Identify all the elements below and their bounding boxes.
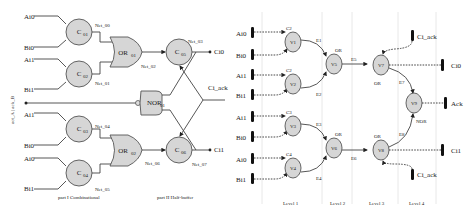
c-gate-04: C 04 xyxy=(66,160,92,186)
c-gate-01: C 01 xyxy=(66,19,92,45)
side-label: act_A | ack_B xyxy=(10,95,15,124)
svg-text:V1: V1 xyxy=(290,40,297,45)
svg-text:C: C xyxy=(175,48,180,56)
node-v5: V5 OR xyxy=(326,48,343,74)
edge-label: E3 xyxy=(316,122,322,127)
edge-label: E4 xyxy=(316,176,322,181)
svg-text:C3: C3 xyxy=(286,110,292,115)
svg-text:C: C xyxy=(175,146,180,154)
input-label: Bi1 xyxy=(236,176,247,184)
input-label: Ai0 xyxy=(24,155,35,163)
svg-text:V4: V4 xyxy=(290,166,297,171)
svg-text:C2: C2 xyxy=(286,26,292,31)
svg-text:C: C xyxy=(77,125,82,133)
input-label: Bi1 xyxy=(24,185,35,193)
level-label-3: Level 3 xyxy=(369,201,385,206)
svg-text:01: 01 xyxy=(131,53,137,58)
c-gate-03: C 03 xyxy=(66,116,92,142)
async-circuit-diagram: act_A | ack_B Ai0 Bi0 Ai1 Bi1 Ai1 Bi0 Ai… xyxy=(0,0,472,219)
level-label-1: Level 1 xyxy=(283,201,299,206)
edge-label: E7 xyxy=(399,80,405,85)
svg-text:V2: V2 xyxy=(290,82,297,87)
net-label: Net_05 xyxy=(95,187,110,192)
svg-text:C4: C4 xyxy=(286,152,292,157)
net-label: Net_00 xyxy=(95,23,110,28)
edge-label: E1 xyxy=(316,38,322,43)
svg-text:OR: OR xyxy=(118,49,128,57)
or-gate-01: OR 01 xyxy=(110,37,142,67)
svg-text:04: 04 xyxy=(83,173,89,178)
input-label: Ai1 xyxy=(24,56,35,64)
svg-text:OR: OR xyxy=(335,48,343,53)
node-v7: V7 OR xyxy=(373,55,389,86)
edge-label: E8 xyxy=(399,132,405,137)
port-ci-ack-bottom: Ci_ack xyxy=(417,171,437,179)
edge-label: E6 xyxy=(351,156,357,161)
port-ack: Ack xyxy=(451,100,463,108)
c-gate-02: C 02 xyxy=(66,61,92,87)
input-label: Ai0 xyxy=(236,156,247,164)
output-ci-ack: Ci_ack xyxy=(208,84,228,92)
svg-text:NOR: NOR xyxy=(416,119,427,124)
svg-text:01: 01 xyxy=(83,32,89,37)
part-label-combinational: part I Combinational xyxy=(58,195,100,200)
svg-text:C: C xyxy=(77,28,82,36)
svg-text:01: 01 xyxy=(160,103,166,108)
svg-text:OR: OR xyxy=(335,132,343,137)
svg-text:V6: V6 xyxy=(331,146,338,151)
node-v6: V6 OR xyxy=(326,132,343,158)
node-v3: V3 C3 xyxy=(285,110,301,136)
input-label: Ai0 xyxy=(236,30,247,38)
net-label: Net_07 xyxy=(192,162,207,167)
net-label: Net_02 xyxy=(141,64,156,69)
svg-text:OR: OR xyxy=(118,147,128,155)
input-label: Ai0 xyxy=(24,13,35,21)
port-ci0: Ci0 xyxy=(451,62,462,70)
input-label: Bi0 xyxy=(24,142,35,150)
svg-text:V7: V7 xyxy=(378,63,385,68)
svg-text:V8: V8 xyxy=(378,148,385,153)
port-ci-ack-top: Ci_ack xyxy=(417,33,437,41)
net-label: Net_03 xyxy=(188,39,203,44)
svg-text:V3: V3 xyxy=(290,124,297,129)
input-label: Bi0 xyxy=(236,134,247,142)
c-gate-05: C 05 xyxy=(166,39,192,65)
right-graph: Ai0 Bi0 Ai1 Bi1 Ai1 Bi0 Ai0 Bi1 V1 C2 xyxy=(236,12,463,206)
svg-text:OR: OR xyxy=(374,134,382,139)
svg-text:V5: V5 xyxy=(331,62,338,67)
svg-text:V9: V9 xyxy=(411,101,418,106)
input-label: Ai1 xyxy=(24,111,35,119)
input-label: Bi0 xyxy=(24,44,35,52)
svg-text:OR: OR xyxy=(374,81,382,86)
svg-text:C: C xyxy=(77,169,82,177)
node-v8: V8 OR xyxy=(373,134,389,160)
node-v9: V9 NOR xyxy=(406,93,427,124)
c-gate-06: C 06 xyxy=(166,137,192,163)
level-label-4: Level 4 xyxy=(409,201,425,206)
input-label: Bi1 xyxy=(24,86,35,94)
input-label: Ai1 xyxy=(236,114,247,122)
output-ci1: Ci1 xyxy=(214,146,225,154)
net-label: Net_04 xyxy=(95,124,110,129)
svg-text:05: 05 xyxy=(181,52,187,57)
part-label-half-buffer: part II Half-buffer xyxy=(157,195,194,200)
svg-text:C: C xyxy=(77,70,82,78)
svg-text:02: 02 xyxy=(131,151,137,156)
svg-text:03: 03 xyxy=(83,129,89,134)
port-ci1: Ci1 xyxy=(451,147,462,155)
input-label: Bi0 xyxy=(236,52,247,60)
svg-text:C2: C2 xyxy=(286,68,292,73)
node-v1: V1 C2 xyxy=(285,26,301,52)
edge-label: E2 xyxy=(316,92,322,97)
net-label: Net_06 xyxy=(145,161,160,166)
net-label: Net_01 xyxy=(95,81,110,86)
nor-gate-01: NOR 01 xyxy=(136,91,166,115)
left-circuit: act_A | ack_B Ai0 Bi0 Ai1 Bi1 Ai1 Bi0 Ai… xyxy=(10,13,228,200)
svg-text:02: 02 xyxy=(83,74,89,79)
node-v2: V2 C2 xyxy=(285,68,301,94)
level-label-2: Level 2 xyxy=(330,201,346,206)
edge-label: E5 xyxy=(351,57,357,62)
input-label: Bi1 xyxy=(236,92,247,100)
input-label: Ai1 xyxy=(236,72,247,80)
node-v4: V4 C4 xyxy=(285,152,301,178)
